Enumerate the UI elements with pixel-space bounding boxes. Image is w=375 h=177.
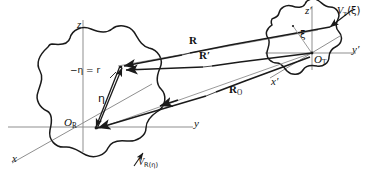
vector-label-eta: η	[98, 93, 105, 104]
figure-canvas: z y x OR −η = r η VR(η) R R′ RO z′ y′ x′…	[0, 0, 375, 177]
volume-label-target: VT(ξ)	[337, 6, 361, 17]
axis-label-y-prime: y′	[352, 44, 359, 55]
origin-receiver-subscript: R	[72, 122, 77, 130]
origin-target-letter: O	[314, 53, 322, 65]
axis-label-z: z	[77, 19, 81, 30]
axis-label-x-prime: x′	[271, 76, 278, 87]
receiver-origin-dot	[95, 127, 98, 130]
target-origin-dot	[311, 52, 314, 55]
volume-label-receiver: VR(η)	[138, 157, 158, 168]
field-point-dot	[120, 66, 123, 69]
axis-label-z-prime: z′	[305, 5, 312, 16]
diagram-svg	[0, 0, 375, 177]
construction-lines	[100, 30, 318, 128]
volume-receiver-subscript: R(η)	[144, 161, 158, 169]
vector-label-R-O: RO	[229, 84, 242, 97]
origin-receiver-letter: O	[64, 116, 72, 128]
origin-label-target: OT	[314, 54, 326, 67]
vector-label-R-prime: R′	[199, 50, 210, 61]
vector-label-xi: ξ	[300, 30, 306, 40]
axis-label-y: y	[194, 118, 199, 129]
volume-target-argument: (ξ)	[347, 5, 360, 16]
vector-R-O-subscript: O	[237, 89, 242, 97]
origin-label-receiver: OR	[64, 117, 77, 130]
vector-label-R: R	[189, 35, 197, 46]
vector-R-O-letter: R	[229, 83, 237, 95]
origin-target-subscript: T	[322, 59, 326, 67]
x-axis-line	[12, 84, 152, 163]
axis-label-x: x	[12, 153, 17, 164]
relation-label-minus-eta-equals-r: −η = r	[70, 66, 100, 75]
